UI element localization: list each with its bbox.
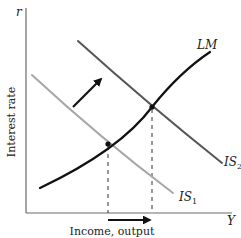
is-lm-diagram: r Y Interest rate Income, output LM IS1 … [0,0,241,238]
y-axis-symbol: r [16,5,23,19]
lm-curve [40,52,210,188]
is1-label: IS1 [178,190,197,206]
is2-label: IS2 [223,155,241,171]
lm-label: LM [196,38,218,52]
equilibrium-point-2 [149,104,154,109]
x-axis-symbol: Y [227,214,236,228]
equilibrium-point-1 [105,141,110,146]
x-axis-title: Income, output [70,225,155,238]
y-axis-title: Interest rate [5,87,18,157]
is-shift-arrow-icon [73,79,101,107]
